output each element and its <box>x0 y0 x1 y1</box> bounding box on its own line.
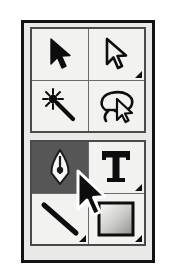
arrow-pointer-filled-icon <box>46 37 74 71</box>
tool-palette <box>21 20 155 263</box>
magic-wand-icon <box>41 87 79 125</box>
flyout-triangle-icon[interactable] <box>135 71 142 78</box>
diagonal-line-icon <box>39 200 81 238</box>
tool-group-drawing <box>30 140 146 246</box>
pen-nib-icon <box>45 147 75 187</box>
gradient-square-icon <box>96 200 136 238</box>
tool-cell-line-tool[interactable] <box>32 194 88 245</box>
arrow-pointer-outline-icon <box>102 37 130 71</box>
tool-cell-move-tool[interactable] <box>32 29 88 80</box>
tool-palette-inner <box>24 23 152 260</box>
tool-cell-magic-wand-tool[interactable] <box>32 81 88 132</box>
lasso-icon <box>94 87 138 125</box>
tool-cell-type-tool[interactable] <box>89 142 145 193</box>
flyout-triangle-icon[interactable] <box>135 184 142 191</box>
tool-cell-gradient-tool[interactable] <box>89 194 145 245</box>
flyout-triangle-icon[interactable] <box>79 184 86 191</box>
tool-cell-lasso-tool[interactable] <box>89 81 145 132</box>
screenshot-stage <box>0 0 175 275</box>
tool-cell-pen-tool[interactable] <box>32 142 88 193</box>
tool-group-selection <box>30 27 146 133</box>
text-t-icon <box>99 147 133 187</box>
flyout-triangle-icon[interactable] <box>135 235 142 242</box>
flyout-triangle-icon[interactable] <box>79 235 86 242</box>
tool-cell-direct-selection-tool[interactable] <box>89 29 145 80</box>
